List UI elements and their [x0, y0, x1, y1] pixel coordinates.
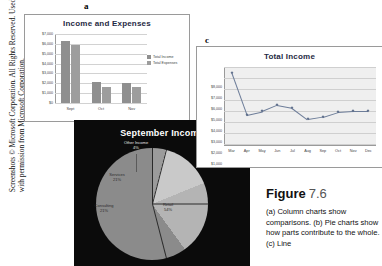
chart-c-x-tick: Apr: [244, 149, 250, 153]
pie-slice-separator: [152, 150, 167, 204]
chart-a-legend: Total IncomeTotal Expenses: [147, 55, 187, 67]
chart-c-gridline: [224, 67, 376, 68]
chart-a-gridline: [55, 34, 147, 35]
figure-page: Screenshots © Microsoft Corporation. All…: [0, 0, 382, 266]
chart-c-y-tick: $5,000: [211, 118, 222, 122]
chart-a-bar: [92, 82, 101, 103]
chart-a-y-tick: $4,000: [42, 62, 53, 66]
pie-callout-line: [136, 154, 137, 172]
chart-c-line-segment: [323, 112, 338, 118]
figure-caption: Figure7.6 (a) Column charts show compari…: [266, 186, 382, 249]
chart-a-legend-label: Total Income: [153, 55, 173, 59]
chart-a-y-axis-labels: $7,000$6,000$5,000$4,000$3,000$2,000$1,0…: [27, 32, 54, 104]
chart-c-data-marker: [321, 115, 324, 118]
chart-c-x-tick: Mar: [228, 149, 235, 153]
chart-a-y-tick: $7,000: [42, 32, 53, 36]
figure-word: Figure: [266, 186, 306, 201]
chart-a-gridline: [55, 103, 147, 104]
pie-slice-label: Consulting21%: [95, 203, 114, 213]
chart-a-bar: [122, 83, 131, 103]
chart-a-y-tick: $2,000: [42, 81, 53, 85]
chart-c-x-tick: Jul: [290, 149, 295, 153]
chart-c-y-tick: $4,000: [211, 129, 222, 133]
chart-c-title: Total Income: [197, 52, 382, 61]
figure-heading: Figure7.6: [266, 186, 382, 201]
chart-c-y-axis-labels: $8,000$7,000$6,000$5,000$4,000$3,000$2,0…: [198, 67, 223, 145]
chart-a-y-tick: $3,000: [42, 71, 53, 75]
credit-line-1: Screenshots © Microsoft Corporation. All…: [8, 2, 17, 192]
chart-c-plot-area: [224, 67, 376, 145]
figure-number: 7.6: [309, 186, 327, 201]
chart-a-bar: [71, 45, 80, 103]
chart-a-bar: [61, 41, 70, 103]
panel-letter-a: a: [84, 1, 89, 11]
chart-c-gridline: [224, 122, 376, 123]
chart-a-y-tick: $1,000: [42, 91, 53, 95]
pie-slice-label: Other Income4%: [124, 140, 148, 150]
chart-c-x-tick: Oct: [335, 149, 341, 153]
chart-a-title: Income and Expenses: [25, 19, 189, 28]
chart-a-bar: [102, 87, 111, 104]
pie-slice-separator: [152, 148, 153, 204]
pie-slice-label-percent: 4%: [124, 145, 148, 150]
pie-slice-label-percent: 54%: [163, 207, 173, 212]
chart-c-y-tick: $6,000: [211, 107, 222, 111]
chart-a-y-tick: $6,000: [42, 42, 53, 46]
chart-a-legend-item: Total Expenses: [147, 61, 187, 65]
chart-c-y-tick: $8,000: [211, 85, 222, 89]
chart-a-legend-item: Total Income: [147, 55, 187, 59]
panel-letter-c: c: [205, 35, 209, 45]
figure-caption-body: (a) Column charts show comparisons. (b) …: [266, 207, 382, 249]
chart-a-bar-group: [122, 83, 141, 103]
chart-c-line-segment: [247, 111, 262, 115]
chart-a-bar-group: [92, 82, 111, 103]
chart-a-legend-swatch: [147, 55, 151, 59]
chart-c-x-axis-labels: MarAprMayJunJulAugSepOctNovDec: [224, 149, 376, 159]
chart-c-data-marker: [351, 109, 354, 112]
chart-c-x-tick: Jun: [274, 149, 280, 153]
pie-slice-label-percent: 21%: [95, 208, 114, 213]
chart-a-x-tick: Oct: [98, 107, 104, 111]
chart-c-x-axis: [224, 145, 376, 146]
chart-c-x-tick: May: [258, 149, 265, 153]
chart-c-gridline: [224, 133, 376, 134]
chart-a-x-tick: Sept: [66, 107, 74, 111]
chart-a-x-tick: Nov: [128, 107, 135, 111]
chart-a-y-tick: $0: [49, 101, 53, 105]
chart-c-x-tick: Sep: [319, 149, 326, 153]
chart-c-x-tick: Dec: [365, 149, 372, 153]
chart-c-x-tick: Aug: [304, 149, 311, 153]
pie-slice-separator: [153, 204, 209, 205]
chart-c-data-marker: [367, 109, 370, 112]
chart-c-line-segment: [231, 73, 247, 115]
chart-c-x-tick: Nov: [350, 149, 357, 153]
chart-c-gridline: [224, 89, 376, 90]
pie-slice-label: Services21%: [109, 172, 124, 182]
chart-c-y-tick: $7,000: [211, 96, 222, 100]
line-chart-panel: Total Income $8,000$7,000$6,000$5,000$4,…: [196, 46, 382, 168]
chart-a-bar-group: [61, 41, 80, 103]
chart-c-y-tick: $3,000: [211, 140, 222, 144]
chart-a-plot-area: [55, 34, 147, 104]
chart-c-gridline: [224, 78, 376, 79]
pie-slice-label-percent: 21%: [109, 177, 124, 182]
pie-slice-separator: [152, 204, 167, 258]
chart-c-gridline: [224, 100, 376, 101]
chart-a-legend-label: Total Expenses: [153, 61, 177, 65]
chart-c-y-tick: $2,000: [211, 151, 222, 155]
chart-a-legend-swatch: [147, 61, 151, 65]
chart-a-y-tick: $5,000: [42, 52, 53, 56]
column-chart-panel: Income and Expenses $7,000$6,000$5,000$4…: [24, 14, 190, 122]
chart-a-bar: [132, 87, 141, 103]
chart-a-x-axis-labels: SeptOctNov: [55, 107, 147, 117]
chart-c-y-tick: $1,000: [211, 162, 222, 166]
chart-c-data-marker: [245, 113, 248, 116]
chart-c-data-marker: [336, 110, 339, 113]
pie-slice-label: Retail54%: [163, 202, 173, 212]
